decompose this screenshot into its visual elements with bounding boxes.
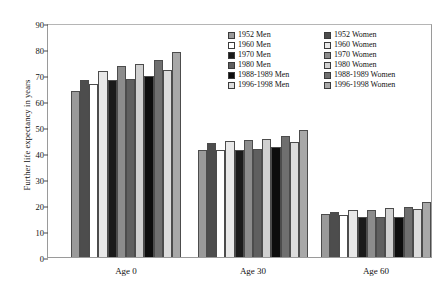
legend-swatch-icon <box>324 42 331 49</box>
legend-label: 1970 Men <box>238 51 271 59</box>
legend-label: 1960 Men <box>238 41 271 49</box>
legend-item: 1996-1998 Men <box>228 81 310 89</box>
legend-item: 1996-1998 Women <box>324 81 416 89</box>
bar <box>108 80 117 257</box>
bar <box>376 217 385 257</box>
y-axis-tick-label: 90 <box>36 20 45 30</box>
bar <box>117 66 126 257</box>
y-axis-tick-label: 30 <box>36 176 45 186</box>
bar <box>126 79 135 257</box>
x-axis-tick-label: Age 30 <box>193 266 313 276</box>
bar <box>216 150 225 257</box>
legend-swatch-icon <box>324 32 331 39</box>
bar <box>253 149 262 257</box>
bar <box>404 207 413 257</box>
bar <box>225 141 234 257</box>
legend-label: 1952 Men <box>238 31 271 39</box>
bar <box>154 60 163 257</box>
bar <box>321 214 330 257</box>
y-axis-tick-mark <box>44 51 48 52</box>
y-axis-title: Further life expectancy in years <box>22 40 32 230</box>
bar <box>290 142 299 257</box>
legend-swatch-icon <box>324 52 331 59</box>
y-axis-tick-mark <box>44 207 48 208</box>
legend-item: 1980 Women <box>324 61 416 69</box>
y-axis-tick-label: 50 <box>36 124 45 134</box>
bar <box>172 52 181 257</box>
legend-item: 1970 Women <box>324 51 416 59</box>
legend-label: 1980 Women <box>334 61 377 69</box>
bar <box>144 76 153 257</box>
legend-swatch-icon <box>228 62 235 69</box>
legend-swatch-icon <box>228 82 235 89</box>
legend-swatch-icon <box>324 62 331 69</box>
bar <box>244 140 253 257</box>
legend-item: 1970 Men <box>228 51 310 59</box>
legend-item: 1952 Men <box>228 31 310 39</box>
legend-item: 1952 Women <box>324 31 416 39</box>
bar <box>71 91 80 257</box>
bar <box>198 150 207 257</box>
bar <box>80 80 89 257</box>
legend-label: 1970 Women <box>334 51 377 59</box>
bar <box>348 210 357 257</box>
legend-label: 1996-1998 Women <box>334 81 395 89</box>
legend-label: 1996-1998 Men <box>238 81 289 89</box>
legend-label: 1952 Women <box>334 31 377 39</box>
bar <box>422 202 431 257</box>
y-axis-tick-label: 10 <box>36 228 45 238</box>
y-axis-tick-mark <box>44 129 48 130</box>
legend-item: 1960 Men <box>228 41 310 49</box>
life-expectancy-bar-chart: Further life expectancy in years 0102030… <box>0 0 445 300</box>
legend-label: 1988-1989 Women <box>334 71 395 79</box>
legend-swatch-icon <box>228 32 235 39</box>
y-axis-tick-mark <box>44 155 48 156</box>
y-axis-tick-mark <box>44 25 48 26</box>
bar-group: Age 0 <box>66 25 186 257</box>
chart-legend: 1952 Men1952 Women1960 Men1960 Women1970… <box>228 31 416 89</box>
bar <box>385 208 394 257</box>
bar <box>339 215 348 257</box>
y-axis-tick-label: 60 <box>36 98 45 108</box>
bar <box>89 84 98 257</box>
y-axis-tick-mark <box>44 77 48 78</box>
y-axis-tick-label: 20 <box>36 202 45 212</box>
legend-swatch-icon <box>228 72 235 79</box>
bar <box>413 209 422 257</box>
bar <box>299 130 308 257</box>
legend-label: 1980 Men <box>238 61 271 69</box>
bar <box>163 70 172 257</box>
y-axis-tick-mark <box>44 259 48 260</box>
legend-swatch-icon <box>228 52 235 59</box>
bar <box>394 217 403 257</box>
y-axis-tick-label: 70 <box>36 72 45 82</box>
bar <box>98 71 107 257</box>
x-axis-tick-label: Age 60 <box>316 266 436 276</box>
legend-swatch-icon <box>228 42 235 49</box>
x-axis-tick-label: Age 0 <box>66 266 186 276</box>
bar <box>262 139 271 257</box>
y-axis-tick-mark <box>44 181 48 182</box>
bar <box>135 64 144 257</box>
legend-label: 1960 Women <box>334 41 377 49</box>
legend-swatch-icon <box>324 72 331 79</box>
legend-item: 1988-1989 Women <box>324 71 416 79</box>
y-axis-tick-label: 40 <box>36 150 45 160</box>
legend-item: 1988-1989 Men <box>228 71 310 79</box>
bar <box>330 212 339 258</box>
legend-item: 1980 Men <box>228 61 310 69</box>
bar <box>271 147 280 258</box>
legend-item: 1960 Women <box>324 41 416 49</box>
legend-label: 1988-1989 Men <box>238 71 289 79</box>
bar <box>281 136 290 257</box>
bar <box>358 217 367 257</box>
y-axis-tick-label: 80 <box>36 46 45 56</box>
bar <box>367 210 376 257</box>
y-axis-tick-mark <box>44 103 48 104</box>
y-axis-tick-mark <box>44 233 48 234</box>
legend-swatch-icon <box>324 82 331 89</box>
bar <box>207 143 216 257</box>
bar <box>235 150 244 257</box>
